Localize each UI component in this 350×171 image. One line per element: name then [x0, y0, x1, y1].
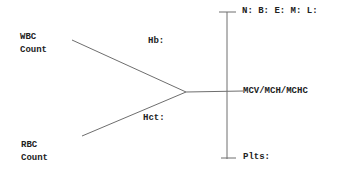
indices-label: MCV/MCH/MCHC: [243, 85, 308, 98]
hct-label: Hct:: [143, 112, 165, 125]
rbc-label: RBC Count: [21, 139, 48, 165]
differential-label: N: B: E: M: L:: [242, 5, 318, 18]
hb-label: Hb:: [148, 35, 164, 48]
rbc-label-line1: RBC: [21, 139, 48, 152]
wbc-label: WBC Count: [20, 31, 47, 57]
wbc-label-line1: WBC: [20, 31, 47, 44]
rbc-label-line2: Count: [21, 152, 48, 165]
wbc-label-line2: Count: [20, 44, 47, 57]
wbc-diagonal-line: [72, 40, 186, 92]
main-horizontal-line: [186, 91, 243, 92]
platelets-label: Plts:: [243, 151, 270, 164]
cbc-fishbone-diagram: WBC Count Hb: Hct: RBC Count N: B: E: M:…: [0, 0, 350, 171]
rbc-diagonal-line: [82, 92, 186, 136]
